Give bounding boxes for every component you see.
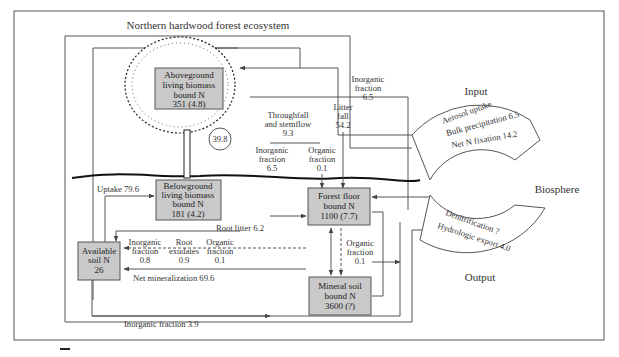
footer-mark [60, 348, 70, 350]
pool-mineral-soil: Mineral soil bound N 3600 (?) [309, 277, 371, 315]
pool-available-soil: Available soil N 26 [78, 242, 120, 280]
svg-text:0.8: 0.8 [140, 255, 151, 265]
output-label: Output [465, 271, 496, 283]
svg-text:bound N: bound N [323, 201, 355, 211]
svg-text:living biomass: living biomass [163, 80, 216, 90]
soil-surface-line [72, 174, 420, 181]
biosphere-label: Biosphere [535, 183, 580, 195]
pool-belowground: Belowground living biomass bound N 181 (… [156, 180, 221, 220]
svg-text:Aboveground: Aboveground [164, 70, 214, 80]
svg-text:bound N: bound N [172, 199, 204, 209]
nitrogen-cycle-diagram: Northern hardwood forest ecosystem Above… [0, 0, 619, 357]
svg-text:Mineral soil: Mineral soil [318, 281, 362, 291]
svg-text:0.1: 0.1 [317, 163, 328, 173]
svg-text:0.1: 0.1 [215, 255, 226, 265]
pool-aboveground: Aboveground living biomass bound N 351 (… [155, 68, 223, 109]
diagram-title: Northern hardwood forest ecosystem [127, 19, 290, 31]
svg-text:3600 (?): 3600 (?) [325, 301, 355, 311]
svg-text:26: 26 [95, 265, 105, 275]
svg-text:Net mineralization 69.6: Net mineralization 69.6 [133, 273, 215, 283]
pool-forest-floor: Forest floor bound N 1100 (7.7) [308, 188, 370, 225]
internal-cycle-value: 39.8 [212, 134, 227, 144]
svg-text:soil N: soil N [88, 255, 110, 265]
svg-text:181 (4.2): 181 (4.2) [172, 209, 205, 219]
svg-text:1100 (7.7): 1100 (7.7) [320, 211, 357, 221]
svg-text:351 (4.8): 351 (4.8) [173, 99, 206, 109]
svg-text:9.3: 9.3 [283, 128, 294, 138]
input-label: Input [464, 85, 487, 97]
svg-text:6.5: 6.5 [267, 163, 278, 173]
svg-text:Forest floor: Forest floor [318, 191, 360, 201]
svg-text:Inorganic fraction 3.9: Inorganic fraction 3.9 [124, 319, 199, 329]
svg-text:0.1: 0.1 [355, 256, 366, 266]
svg-text:54.2: 54.2 [335, 120, 350, 130]
uptake-label: Uptake 79.6 [97, 184, 140, 194]
svg-text:0.9: 0.9 [179, 255, 190, 265]
svg-text:6.5: 6.5 [363, 92, 374, 102]
svg-text:bound N: bound N [324, 291, 356, 301]
